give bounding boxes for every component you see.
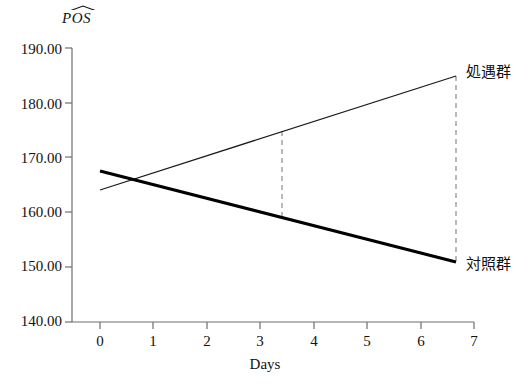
x-tick-marks <box>100 322 474 329</box>
chart-container: POS 190.00 180.00 170.00 160.00 150.00 1… <box>0 0 530 389</box>
plot-area <box>0 0 530 389</box>
series-line-treatment <box>100 76 456 190</box>
series-line-control <box>100 171 456 262</box>
y-tick-marks <box>65 48 72 322</box>
